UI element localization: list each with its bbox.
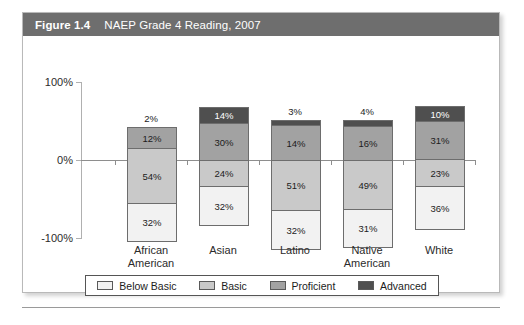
legend-swatch-proficient-icon bbox=[270, 281, 286, 290]
y-tick-bottom bbox=[76, 238, 82, 239]
segment-basic[interactable]: 49% bbox=[344, 161, 392, 210]
legend-swatch-below-basic-icon bbox=[97, 281, 113, 290]
segment-proficient[interactable]: 30% bbox=[200, 124, 248, 161]
legend-item-below-basic[interactable]: Below Basic bbox=[97, 280, 176, 292]
category-label-line1: White bbox=[395, 244, 483, 257]
segment-basic[interactable]: 23% bbox=[416, 160, 464, 187]
legend-label-basic: Basic bbox=[221, 280, 247, 292]
segment-proficient[interactable]: 16% bbox=[344, 127, 392, 161]
y-axis-label-mid: 0% bbox=[57, 154, 73, 166]
bar-above-label: 3% bbox=[259, 106, 331, 117]
bar-group-african-american[interactable]: 2% 12% 54% 32% African American bbox=[115, 36, 187, 294]
figure-number: Figure 1.4 bbox=[35, 19, 90, 31]
figure-container: Figure 1.4 NAEP Grade 4 Reading, 2007 10… bbox=[22, 12, 500, 293]
segment-below-basic[interactable]: 32% bbox=[128, 204, 176, 241]
legend-label-advanced: Advanced bbox=[380, 280, 427, 292]
segment-advanced[interactable]: 14% bbox=[200, 108, 248, 124]
bar-above-label: 2% bbox=[115, 113, 187, 124]
segment-proficient[interactable]: 14% bbox=[272, 126, 320, 161]
legend-label-below-basic: Below Basic bbox=[119, 280, 176, 292]
chart-legend: Below Basic Basic Proficient Advanced bbox=[85, 275, 439, 296]
figure-title-bar: Figure 1.4 NAEP Grade 4 Reading, 2007 bbox=[23, 13, 499, 36]
bar-group-latino[interactable]: 3% 14% 51% 32% Latino bbox=[259, 36, 331, 294]
segment-below-basic[interactable]: 32% bbox=[200, 187, 248, 225]
segment-basic[interactable]: 24% bbox=[200, 161, 248, 187]
bar-stack[interactable]: 10% 31% 23% 36% bbox=[415, 106, 465, 230]
segment-proficient[interactable]: 31% bbox=[416, 122, 464, 160]
legend-item-proficient[interactable]: Proficient bbox=[270, 280, 336, 292]
chart-plot-area: 100% 0% -100% 2% 12% 54% 32% African Ame… bbox=[23, 36, 501, 294]
segment-below-basic[interactable]: 31% bbox=[344, 210, 392, 247]
legend-swatch-basic-icon bbox=[199, 281, 215, 290]
segment-basic[interactable]: 54% bbox=[128, 149, 176, 204]
category-label-line2: American bbox=[107, 257, 195, 270]
bar-stack[interactable]: 14% 30% 24% 32% bbox=[199, 107, 249, 226]
bar-group-white[interactable]: 10% 31% 23% 36% White bbox=[403, 36, 475, 294]
segment-advanced[interactable]: 10% bbox=[416, 107, 464, 122]
bar-stack[interactable]: 14% 51% 32% bbox=[271, 120, 321, 250]
y-axis-label-top: 100% bbox=[45, 76, 73, 88]
legend-item-basic[interactable]: Basic bbox=[199, 280, 247, 292]
figure-title: NAEP Grade 4 Reading, 2007 bbox=[104, 19, 260, 31]
category-label-line2: American bbox=[323, 257, 411, 270]
legend-swatch-advanced-icon bbox=[358, 281, 374, 290]
bar-group-asian[interactable]: 14% 30% 24% 32% Asian bbox=[187, 36, 259, 294]
legend-label-proficient: Proficient bbox=[292, 280, 336, 292]
page-bottom-rule bbox=[22, 307, 500, 308]
bar-stack[interactable]: 16% 49% 31% bbox=[343, 120, 393, 248]
baseline-end-tick bbox=[475, 160, 476, 165]
legend-item-advanced[interactable]: Advanced bbox=[358, 280, 427, 292]
y-tick-top bbox=[76, 82, 82, 83]
bar-group-native-american[interactable]: 4% 16% 49% 31% Native American bbox=[331, 36, 403, 294]
segment-basic[interactable]: 51% bbox=[272, 161, 320, 211]
segment-proficient[interactable]: 12% bbox=[128, 128, 176, 149]
category-label-white: White bbox=[395, 244, 483, 257]
bar-above-label: 4% bbox=[331, 106, 403, 117]
segment-below-basic[interactable]: 36% bbox=[416, 187, 464, 229]
bar-stack[interactable]: 12% 54% 32% bbox=[127, 127, 177, 242]
y-axis-label-bottom: -100% bbox=[41, 232, 73, 244]
